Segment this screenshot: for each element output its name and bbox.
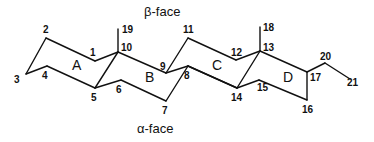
atom-label-3: 3 xyxy=(14,74,20,85)
atom-label-4: 4 xyxy=(42,70,48,81)
bond-2-1 xyxy=(46,38,95,61)
atom-label-6: 6 xyxy=(116,84,122,95)
ring-label-d: D xyxy=(283,69,293,85)
atom-label-19: 19 xyxy=(122,24,134,35)
steroid-skeleton-diagram: ABCD 123456789101112131415161718192021 β… xyxy=(0,0,374,142)
alpha-face-label: α-face xyxy=(137,121,173,136)
atom-label-5: 5 xyxy=(91,92,97,103)
atom-label-7: 7 xyxy=(162,105,168,116)
atom-label-11: 11 xyxy=(183,24,194,35)
atom-label-16: 16 xyxy=(302,104,314,115)
atom-label-8: 8 xyxy=(184,70,190,81)
ring-label-b: B xyxy=(145,69,154,85)
ring-label-c: C xyxy=(212,57,222,73)
bond-10-9 xyxy=(118,52,166,73)
beta-face-label: β-face xyxy=(144,4,180,19)
atom-label-13: 13 xyxy=(263,42,275,53)
atom-label-18: 18 xyxy=(263,22,275,33)
atom-label-2: 2 xyxy=(43,24,49,35)
atom-label-9: 9 xyxy=(160,61,166,72)
bond-6-7 xyxy=(121,80,166,101)
ring-label-a: A xyxy=(72,57,82,73)
atom-label-20: 20 xyxy=(320,51,332,62)
bond-4-5 xyxy=(47,66,95,88)
bond-3-2 xyxy=(26,38,46,74)
atom-label-12: 12 xyxy=(231,47,243,58)
atom-label-15: 15 xyxy=(257,82,269,93)
atom-label-14: 14 xyxy=(231,92,243,103)
bond-17-20 xyxy=(307,63,325,72)
atom-label-1: 1 xyxy=(90,47,96,58)
atom-label-17: 17 xyxy=(310,72,322,83)
atom-label-21: 21 xyxy=(347,77,359,88)
atom-label-10: 10 xyxy=(121,42,133,53)
